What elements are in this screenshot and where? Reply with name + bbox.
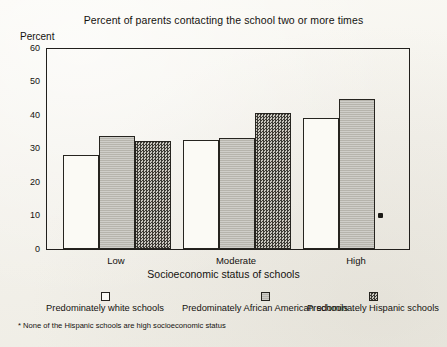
x-tick-label-moderate: Moderate xyxy=(216,255,256,266)
y-tick-label-30: 30 xyxy=(14,144,40,153)
legend-label-hispanic: Predominately Hispanic schools xyxy=(299,303,447,313)
x-tick-label-low: Low xyxy=(107,255,124,266)
y-tick-label-0: 0 xyxy=(14,245,40,254)
legend-swatch-white-icon xyxy=(101,292,110,301)
y-tick-label-40: 40 xyxy=(14,111,40,120)
y-axis-title: Percent xyxy=(20,31,54,42)
x-axis-title: Socioeconomic status of schools xyxy=(0,268,447,280)
bar-moderate-hispanic xyxy=(255,113,291,249)
y-tick-label-10: 10 xyxy=(14,211,40,220)
chart-title: Percent of parents contacting the school… xyxy=(0,14,447,26)
bar-low-gray xyxy=(99,136,135,249)
legend-item-hispanic: Predominately Hispanic schools xyxy=(299,292,447,313)
chart-figure: Percent of parents contacting the school… xyxy=(0,0,447,347)
bar-low-white xyxy=(63,155,99,249)
bar-high-white xyxy=(303,118,339,249)
missing-data-asterisk-icon xyxy=(378,213,383,218)
bar-high-gray xyxy=(339,99,375,249)
chart-footnote: * None of the Hispanic schools are high … xyxy=(18,321,226,330)
y-tick-label-50: 50 xyxy=(14,77,40,86)
chart-legend: Predominately white schools Predominatel… xyxy=(0,292,447,318)
bar-low-hispanic xyxy=(135,141,171,249)
bars-layer xyxy=(47,49,409,249)
y-tick-label-60: 60 xyxy=(14,44,40,53)
legend-swatch-gray-icon xyxy=(261,292,270,301)
x-tick-label-high: High xyxy=(346,255,366,266)
bar-moderate-gray xyxy=(219,138,255,249)
plot-area xyxy=(46,48,410,250)
bar-moderate-white xyxy=(183,140,219,249)
y-tick-label-20: 20 xyxy=(14,178,40,187)
legend-swatch-checkered-icon xyxy=(369,292,378,301)
